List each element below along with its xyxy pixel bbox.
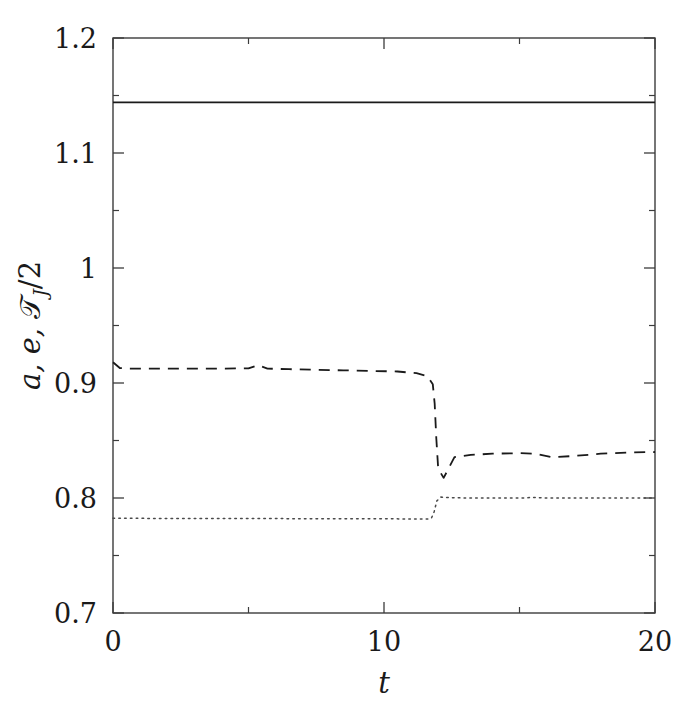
series-line-2 bbox=[113, 497, 655, 519]
y-tick-label: 0.8 bbox=[54, 483, 97, 514]
axis-ticks bbox=[113, 38, 655, 613]
y-axis-title: a, e, 𝒯J/2 bbox=[13, 261, 51, 390]
figure-container: 010200.70.80.911.11.2 ta, e, 𝒯J/2 bbox=[0, 0, 686, 714]
y-tick-label: 0.7 bbox=[54, 598, 97, 629]
y-tick-label: 0.9 bbox=[54, 368, 97, 399]
series-line-1 bbox=[113, 362, 655, 478]
x-tick-label: 20 bbox=[638, 626, 672, 657]
x-tick-label: 10 bbox=[367, 626, 401, 657]
y-tick-label: 1.2 bbox=[54, 23, 97, 54]
x-tick-label: 0 bbox=[104, 626, 121, 657]
axes-frame bbox=[113, 38, 655, 613]
data-series-group bbox=[113, 102, 655, 519]
y-tick-label: 1 bbox=[80, 253, 97, 284]
axis-tick-labels: 010200.70.80.911.11.2 bbox=[54, 23, 672, 657]
y-axis-title-text: a, e, 𝒯J/2 bbox=[13, 261, 51, 390]
y-tick-label: 1.1 bbox=[54, 138, 97, 169]
plot-canvas: 010200.70.80.911.11.2 ta, e, 𝒯J/2 bbox=[0, 0, 686, 714]
x-axis-title: t bbox=[378, 666, 390, 700]
axis-titles: ta, e, 𝒯J/2 bbox=[13, 261, 390, 700]
plot-frame bbox=[113, 38, 655, 613]
